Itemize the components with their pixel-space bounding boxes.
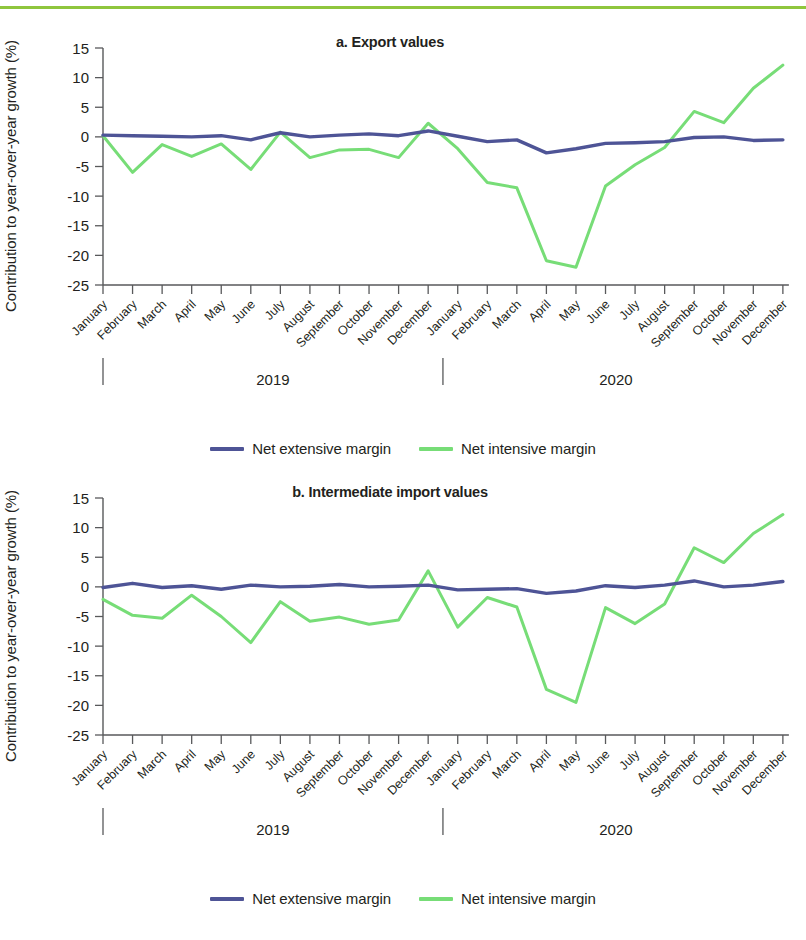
panel-a-plot: 151050-5-10-15-20-25JanuaryFebruaryMarch…: [0, 20, 806, 420]
x-tick-label: May: [556, 747, 583, 774]
y-tick-label: -5: [76, 608, 89, 625]
y-tick-label: 10: [72, 519, 89, 536]
series-line-net-extensive-margin: [103, 581, 783, 593]
y-tick-label: -25: [67, 727, 89, 744]
x-tick-label: March: [135, 297, 169, 331]
chart-panel-export-values: Contribution to year-over-year growth (%…: [0, 20, 806, 460]
x-tick-label: May: [556, 297, 583, 324]
x-tick-label: March: [490, 297, 524, 331]
chart-panel-intermediate-import-values: Contribution to year-over-year growth (%…: [0, 470, 806, 940]
series-line-net-intensive-margin: [103, 515, 783, 703]
y-tick-label: 15: [72, 490, 89, 507]
year-group-label: 2019: [256, 821, 289, 838]
panel-b-legend: Net extensive marginNet intensive margin: [0, 888, 806, 907]
x-tick-label: June: [584, 297, 613, 326]
y-tick-label: 5: [81, 99, 89, 116]
x-tick-label: April: [171, 297, 199, 325]
y-tick-label: 0: [81, 578, 89, 595]
legend-item[interactable]: Net intensive margin: [419, 439, 596, 458]
y-tick-label: 5: [81, 549, 89, 566]
legend-swatch-icon: [210, 447, 244, 451]
legend-item[interactable]: Net intensive margin: [419, 889, 596, 908]
x-tick-label: March: [135, 747, 169, 781]
y-tick-label: -10: [67, 638, 89, 655]
x-tick-label: March: [490, 747, 524, 781]
legend-label: Net intensive margin: [461, 890, 596, 907]
legend-swatch-icon: [419, 447, 453, 451]
legend-label: Net extensive margin: [252, 440, 391, 457]
y-tick-label: -25: [67, 277, 89, 294]
legend-item[interactable]: Net extensive margin: [210, 889, 391, 908]
series-line-net-intensive-margin: [103, 65, 783, 267]
x-tick-label: May: [202, 297, 229, 324]
y-tick-label: -5: [76, 158, 89, 175]
y-tick-label: -20: [67, 247, 89, 264]
x-tick-label: April: [526, 297, 554, 325]
year-group-label: 2019: [256, 371, 289, 388]
legend-item[interactable]: Net extensive margin: [210, 439, 391, 458]
x-tick-label: April: [526, 747, 554, 775]
y-tick-label: -15: [67, 217, 89, 234]
legend-swatch-icon: [419, 897, 453, 901]
x-tick-label: June: [584, 747, 613, 776]
y-tick-label: -20: [67, 697, 89, 714]
x-tick-label: May: [202, 747, 229, 774]
x-tick-label: April: [171, 747, 199, 775]
legend-label: Net extensive margin: [252, 890, 391, 907]
panel-a-legend: Net extensive marginNet intensive margin: [0, 438, 806, 457]
year-group-label: 2020: [599, 821, 632, 838]
panel-b-plot: 151050-5-10-15-20-25JanuaryFebruaryMarch…: [0, 470, 806, 870]
x-tick-label: June: [229, 297, 258, 326]
x-tick-label: June: [229, 747, 258, 776]
legend-swatch-icon: [210, 897, 244, 901]
y-tick-label: 0: [81, 128, 89, 145]
legend-label: Net intensive margin: [461, 440, 596, 457]
y-tick-label: -10: [67, 188, 89, 205]
y-tick-label: 10: [72, 69, 89, 86]
year-group-label: 2020: [599, 371, 632, 388]
y-tick-label: 15: [72, 40, 89, 57]
y-tick-label: -15: [67, 667, 89, 684]
top-accent-rule: [0, 6, 806, 9]
